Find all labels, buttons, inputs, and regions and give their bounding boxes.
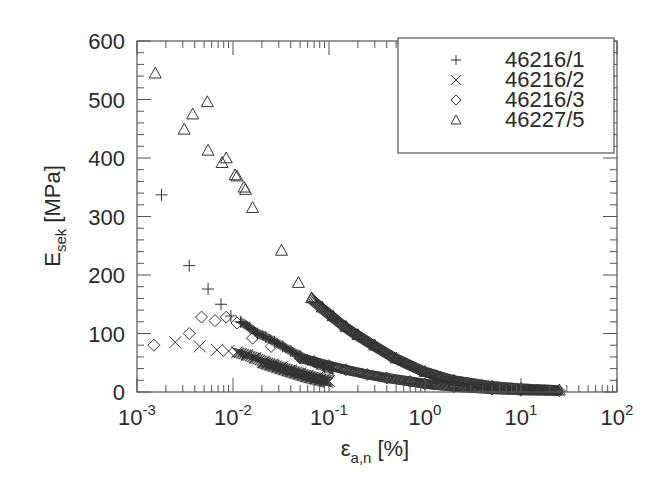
dense-data-band [232, 293, 563, 396]
plus-marker-icon [183, 260, 195, 272]
x-marker-icon [223, 345, 235, 357]
legend: 46216/146216/246216/346227/5 [398, 38, 614, 153]
x-axis-label-main: ε [341, 436, 351, 461]
y-tick-label: 400 [88, 146, 125, 171]
x-tick-label: 10-1 [310, 401, 348, 430]
chart-canvas: 0100200300400500600 10-310-210-110010110… [0, 0, 660, 491]
triangle-marker-icon [247, 202, 259, 213]
diamond-marker-icon [183, 328, 195, 340]
y-tick-label: 100 [88, 322, 125, 347]
triangle-marker-icon [187, 108, 199, 119]
y-tick-label: 600 [88, 29, 125, 54]
triangle-marker-icon [275, 244, 287, 255]
x-marker-icon [169, 336, 181, 348]
x-tick-label: 102 [601, 401, 634, 430]
triangle-marker-icon [216, 157, 228, 168]
triangle-marker-icon [292, 277, 304, 288]
x-marker-icon [194, 340, 206, 352]
plus-marker-icon [202, 283, 214, 295]
x-axis-label-unit: [%] [377, 436, 409, 461]
svg-text:Esek[MPa]: Esek[MPa] [40, 165, 69, 267]
legend-label: 46227/5 [505, 107, 585, 132]
y-tick-label: 300 [88, 205, 125, 230]
diamond-marker-icon [209, 315, 221, 327]
y-tick-label: 0 [113, 380, 125, 405]
plus-marker-icon [215, 298, 227, 310]
x-marker-icon [211, 344, 223, 356]
x-tick-label: 101 [505, 401, 538, 430]
diamond-marker-icon [148, 339, 160, 351]
y-axis-label: Esek[MPa] [40, 165, 69, 267]
y-axis-label-main: E [40, 252, 65, 267]
x-tick-label: 10-2 [214, 401, 252, 430]
x-axis-label: εa,n[%] [341, 436, 409, 466]
triangle-marker-icon [149, 67, 161, 78]
triangle-marker-icon [178, 123, 190, 134]
y-tick-label: 500 [88, 88, 125, 113]
diamond-marker-icon [196, 311, 208, 323]
triangle-marker-icon [201, 96, 213, 107]
x-tick-label: 100 [409, 401, 442, 430]
x-tick-label: 10-3 [118, 401, 156, 430]
y-axis-label-sub: sek [52, 228, 69, 252]
y-tick-label: 200 [88, 263, 125, 288]
x-axis-label-sub: a,n [351, 449, 372, 466]
svg-text:εa,n[%]: εa,n[%] [341, 436, 409, 466]
plus-marker-icon [156, 189, 168, 201]
triangle-marker-icon [202, 144, 214, 155]
y-axis-label-unit: [MPa] [40, 165, 65, 222]
